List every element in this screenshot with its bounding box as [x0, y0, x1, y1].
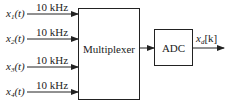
multiplexer-block: Multiplexer — [79, 9, 140, 100]
adc-block: ADC — [155, 30, 193, 66]
block-diagram: x1(t) 10 kHz x2(t) 10 kHz x3(t) 10 kHz x… — [0, 0, 232, 106]
input-3-label: x3(t) — [5, 60, 25, 74]
input-4-label: x4(t) — [5, 85, 25, 99]
input-4: x4(t) 10 kHz — [5, 79, 78, 99]
input-3: x3(t) 10 kHz — [5, 54, 78, 74]
input-3-rate: 10 kHz — [36, 54, 68, 66]
input-4-rate: 10 kHz — [36, 79, 68, 91]
input-1: x1(t) 10 kHz — [5, 1, 78, 21]
output: xd[k] — [193, 32, 225, 48]
multiplexer-label: Multiplexer — [83, 43, 135, 55]
input-1-rate: 10 kHz — [36, 1, 68, 13]
input-2: x2(t) 10 kHz — [5, 26, 78, 46]
adc-label: ADC — [162, 42, 185, 54]
input-2-label: x2(t) — [5, 32, 25, 46]
input-1-label: x1(t) — [5, 7, 25, 21]
input-2-rate: 10 kHz — [36, 26, 68, 38]
output-label: xd[k] — [195, 32, 217, 46]
